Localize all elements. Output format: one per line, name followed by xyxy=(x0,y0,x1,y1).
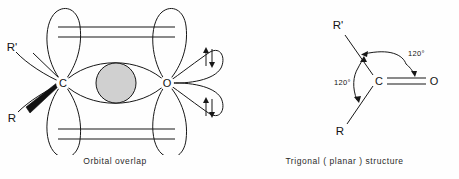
pi-bond-bottom xyxy=(58,129,175,139)
oxygen-lone-pair-lobe-lower xyxy=(167,83,223,116)
carbon-sp2-lobe-upper-left xyxy=(16,52,63,83)
angle-label-upper: 120° xyxy=(408,49,425,58)
orbital-overlap-panel: C O R' R xyxy=(0,0,230,179)
spin-arrow-up-head-2 xyxy=(203,97,209,103)
substituent-label-r: R xyxy=(8,112,16,124)
bond-c-to-r-wedge xyxy=(26,82,60,113)
orbital-overlap-drawing: C O R' R xyxy=(0,0,230,155)
trigonal-planar-drawing: C O R' R 120° 120° xyxy=(230,0,459,155)
spin-arrow-up-head-1 xyxy=(203,47,209,53)
oxygen-atom-marker: O xyxy=(160,76,174,91)
angle-arc-upper-path xyxy=(364,52,406,64)
trigonal-planar-caption: Trigonal ( planar ) structure xyxy=(230,156,459,166)
orbital-overlap-caption: Orbital overlap xyxy=(0,156,230,166)
angle-label-lower: 120° xyxy=(334,78,351,87)
spin-arrows-lower-lone-pair xyxy=(203,97,215,118)
angle-arc-upper-arrowhead-left xyxy=(361,51,368,57)
carbon-atom-label-trigonal: C xyxy=(375,75,383,87)
bond-c-to-rprime xyxy=(33,53,61,80)
angle-arc-upper-arrowhead-right xyxy=(411,71,417,77)
sigma-overlap-region xyxy=(63,63,167,104)
carbon-atom-label: C xyxy=(59,77,67,89)
carbon-atom-marker: C xyxy=(56,76,70,91)
oxygen-lone-pair-lobe-upper xyxy=(167,50,223,83)
spin-arrow-down-head-1 xyxy=(209,62,215,68)
bond-c-to-rprime-trigonal xyxy=(345,35,373,75)
carbon-orbital-lobes xyxy=(16,8,81,155)
carbon-p-lobe-down xyxy=(47,83,81,155)
spin-arrow-down-head-2 xyxy=(209,112,215,118)
oxygen-p-lobe-up xyxy=(153,8,187,83)
angle-arc-lower-path xyxy=(354,68,358,100)
carbonyl-double-bond xyxy=(387,78,426,84)
overlap-shaded-circle xyxy=(96,63,136,103)
substituent-label-rprime: R' xyxy=(7,41,18,53)
oxygen-atom-label-trigonal: O xyxy=(430,75,439,87)
angle-arc-lower-arrowhead-top xyxy=(360,56,367,62)
oxygen-atom-label: O xyxy=(163,77,172,89)
bond-c-to-r-trigonal xyxy=(347,86,373,124)
substituent-label-rprime-trigonal: R' xyxy=(333,19,344,31)
pi-bond-top xyxy=(58,27,175,37)
substituent-label-r-trigonal: R xyxy=(336,125,344,137)
carbonyl-bonding-figure: C O R' R xyxy=(0,0,459,179)
angle-arc-lower-arrowhead-bottom xyxy=(354,96,361,103)
trigonal-planar-panel: C O R' R 120° 120° Trigonal ( planar xyxy=(230,0,459,179)
